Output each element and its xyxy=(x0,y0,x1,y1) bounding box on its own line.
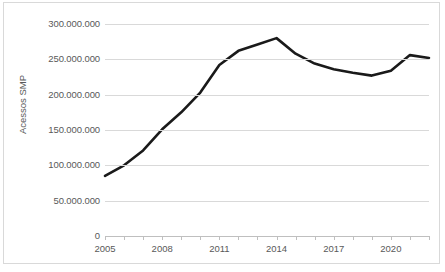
x-axis-tick xyxy=(219,236,220,240)
x-axis-tick-label: 2014 xyxy=(257,243,297,254)
x-axis-tick xyxy=(353,236,354,240)
gridline xyxy=(105,165,429,166)
y-axis-tick-label: 250.000.000 xyxy=(14,53,100,64)
x-axis-tick xyxy=(200,236,201,240)
plot-area xyxy=(105,24,429,236)
x-axis-tick xyxy=(410,236,411,240)
gridline xyxy=(105,95,429,96)
chart-frame: Acessos SMP 050.000.000100.000.000150.00… xyxy=(3,2,440,264)
gridline xyxy=(105,130,429,131)
x-axis-tick-labels: 200520082011201420172020 xyxy=(105,243,429,257)
x-axis-tick-label: 2011 xyxy=(199,243,239,254)
x-axis-tick xyxy=(124,236,125,240)
x-axis-ticks xyxy=(105,236,429,241)
gridline xyxy=(105,59,429,60)
y-axis-tick-label: 150.000.000 xyxy=(14,124,100,135)
x-axis-tick-label: 2020 xyxy=(371,243,411,254)
y-axis-tick-label: 0 xyxy=(14,230,100,241)
x-axis-tick xyxy=(162,236,163,240)
x-axis-tick xyxy=(391,236,392,240)
x-axis-tick xyxy=(315,236,316,240)
x-axis-tick xyxy=(372,236,373,240)
y-axis-tick-label: 50.000.000 xyxy=(14,195,100,206)
x-axis-tick-label: 2017 xyxy=(314,243,354,254)
x-axis-tick xyxy=(105,236,106,240)
gridline xyxy=(105,201,429,202)
x-axis-tick xyxy=(296,236,297,240)
gridline xyxy=(105,24,429,25)
y-axis-tick-labels: 050.000.000100.000.000150.000.000200.000… xyxy=(12,24,100,236)
y-axis-tick-label: 100.000.000 xyxy=(14,159,100,170)
x-axis-tick xyxy=(257,236,258,240)
x-axis-tick xyxy=(277,236,278,240)
x-axis-tick xyxy=(429,236,430,240)
y-axis-tick-label: 200.000.000 xyxy=(14,89,100,100)
x-axis-tick xyxy=(143,236,144,240)
x-axis-tick xyxy=(334,236,335,240)
x-axis-tick xyxy=(181,236,182,240)
y-axis-tick-label: 300.000.000 xyxy=(14,18,100,29)
x-axis-tick xyxy=(238,236,239,240)
x-axis-tick-label: 2008 xyxy=(142,243,182,254)
x-axis-tick-label: 2005 xyxy=(85,243,125,254)
